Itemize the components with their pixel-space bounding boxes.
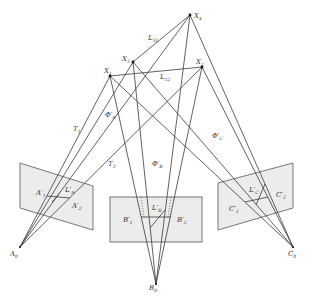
label-t1: T1 — [73, 125, 81, 134]
label-x2: X2 — [195, 58, 204, 67]
label-phi-a: Φ′A — [105, 111, 116, 120]
label-b0: B0 — [148, 284, 157, 293]
label-a0: A0 — [9, 250, 18, 259]
camera-center-a0 — [19, 246, 21, 248]
label-l12: L12 — [159, 73, 171, 82]
label-x4: X4 — [193, 12, 202, 21]
line-l31 — [133, 15, 190, 62]
ray-x1-b0 — [110, 76, 156, 284]
label-phi-c: Φ′C — [212, 132, 223, 141]
label-l31: L31 — [147, 34, 158, 43]
label-x1: X1 — [103, 67, 112, 76]
label-t3: T3 — [108, 160, 116, 169]
point-x3 — [132, 61, 135, 64]
multi-view-geometry-diagram: X4 X3 X2 X1 A0 B0 C0 L31 L12 T1 T3 Φ′A Φ… — [0, 0, 313, 306]
label-c0: C0 — [288, 250, 296, 259]
point-x4 — [189, 14, 192, 17]
camera-center-c0 — [292, 246, 294, 248]
line-l12 — [110, 67, 202, 76]
ray-x3-b0 — [133, 62, 156, 284]
label-phi-b: Φ′B — [152, 160, 163, 169]
camera-center-b0 — [155, 283, 157, 285]
label-x3: X3 — [121, 55, 130, 64]
